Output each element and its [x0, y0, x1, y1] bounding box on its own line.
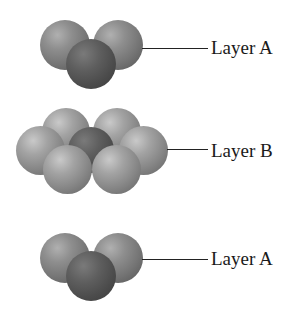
layer-a-bottom-group: Layer A	[0, 0, 305, 319]
layer-label: Layer A	[211, 249, 273, 268]
sphere	[66, 251, 116, 301]
leader-line	[142, 259, 208, 260]
